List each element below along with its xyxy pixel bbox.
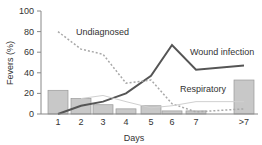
x-tick-label: 3: [100, 117, 105, 127]
fever-chart: 020406080100 1234567>7 Fevers (%) Days U…: [0, 0, 262, 145]
chart-canvas: 020406080100 1234567>7 Fevers (%) Days U…: [0, 0, 262, 145]
bar: [116, 109, 136, 114]
bar: [234, 80, 254, 114]
x-tick-label: 2: [78, 117, 83, 127]
y-axis-label: Fevers (%): [5, 41, 15, 85]
x-tick-label: 5: [148, 117, 153, 127]
label-wound-infection: Wound infection: [190, 47, 254, 57]
y-tick-label: 80: [24, 27, 34, 37]
label-respiratory: Respiratory: [180, 84, 227, 94]
y-tick-label: 60: [24, 47, 34, 57]
x-tick-label: 7: [193, 117, 198, 127]
x-tick-label: 6: [169, 117, 174, 127]
y-tick-label: 40: [24, 68, 34, 78]
x-tick-label: >7: [239, 117, 249, 127]
y-tick-label: 0: [29, 109, 34, 119]
label-undiagnosed: Undiagnosed: [76, 27, 129, 37]
x-tick-label: 4: [123, 117, 128, 127]
x-axis-label: Days: [124, 133, 145, 143]
x-tick-label: 1: [55, 117, 60, 127]
y-tick-label: 100: [19, 6, 34, 16]
x-axis: 1234567>7: [41, 114, 258, 127]
y-tick-label: 20: [24, 88, 34, 98]
y-axis: 020406080100: [19, 6, 41, 119]
bar: [93, 105, 113, 114]
